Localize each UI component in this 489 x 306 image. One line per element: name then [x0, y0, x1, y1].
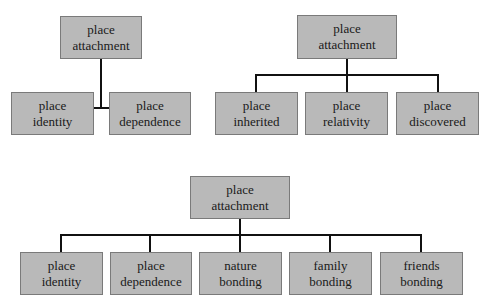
connector — [100, 59, 102, 109]
node-label: discovered — [409, 114, 465, 130]
node-label: relativity — [323, 114, 370, 130]
node-label: nature — [224, 258, 256, 274]
node-label: friends — [403, 258, 439, 274]
node-label: place — [136, 98, 163, 114]
connector — [420, 234, 422, 253]
child-node: friends bonding — [380, 252, 463, 295]
child-node: place identity — [20, 252, 103, 295]
node-label: place — [333, 21, 360, 37]
connector — [437, 74, 439, 93]
root-node: place attachment — [297, 15, 397, 59]
node-label: place — [48, 258, 75, 274]
node-label: bonding — [309, 274, 352, 290]
node-label: place — [226, 182, 253, 198]
child-node: family bonding — [289, 252, 372, 295]
child-node: place dependence — [109, 92, 191, 135]
node-label: dependence — [120, 274, 181, 290]
node-label: identity — [33, 114, 73, 130]
connector — [94, 107, 109, 109]
node-label: place — [243, 98, 270, 114]
connector — [346, 59, 348, 93]
connector — [239, 219, 241, 253]
connector — [255, 74, 439, 76]
node-label: place — [424, 98, 451, 114]
connector — [60, 234, 422, 236]
node-label: bonding — [219, 274, 262, 290]
node-label: place — [87, 22, 114, 38]
node-label: place — [333, 98, 360, 114]
connector — [329, 234, 331, 253]
child-node: place dependence — [110, 252, 192, 295]
node-label: attachment — [318, 37, 375, 53]
root-node: place attachment — [60, 16, 142, 59]
node-label: place — [137, 258, 164, 274]
node-label: place — [39, 98, 66, 114]
node-label: dependence — [119, 114, 180, 130]
child-node: place identity — [11, 92, 94, 135]
node-label: family — [314, 258, 348, 274]
root-node: place attachment — [190, 176, 290, 219]
node-label: identity — [42, 274, 82, 290]
node-label: bonding — [400, 274, 443, 290]
node-label: attachment — [72, 38, 129, 54]
child-node: place discovered — [396, 92, 479, 135]
child-node: place relativity — [305, 92, 388, 135]
child-node: nature bonding — [199, 252, 282, 295]
node-label: attachment — [211, 198, 268, 214]
connector — [60, 234, 62, 253]
node-label: inherited — [233, 114, 279, 130]
connector — [149, 234, 151, 253]
child-node: place inherited — [215, 92, 298, 135]
connector — [255, 74, 257, 93]
